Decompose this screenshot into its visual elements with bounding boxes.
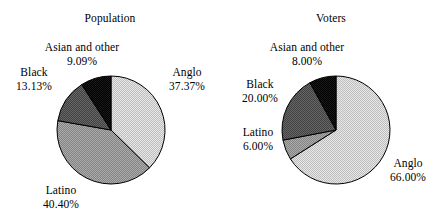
chart-panel-population: Population bbox=[0, 0, 220, 217]
slice-label-value: 66.00% bbox=[377, 171, 439, 185]
slice-label-name: Latino bbox=[227, 126, 289, 140]
pie-population-slices bbox=[57, 76, 165, 184]
slice-label-name: Asian and other bbox=[22, 41, 142, 55]
slice-label-value: 13.13% bbox=[3, 80, 65, 94]
chart-title-population: Population bbox=[0, 12, 220, 25]
slice-label-asian-and-other-voters: Asian and other 8.00% bbox=[247, 41, 367, 68]
slice-label-value: 37.37% bbox=[156, 80, 218, 94]
slice-label-latino-voters: Latino 6.00% bbox=[227, 126, 289, 153]
pie-chart-figure: Population bbox=[0, 0, 441, 217]
slice-label-name: Asian and other bbox=[247, 41, 367, 55]
pie-voters-slices bbox=[282, 76, 390, 184]
slice-label-name: Black bbox=[3, 66, 65, 80]
slice-label-black-population: Black 13.13% bbox=[3, 66, 65, 93]
slice-label-name: Black bbox=[229, 78, 291, 92]
slice-label-name: Latino bbox=[30, 184, 92, 198]
slice-label-value: 40.40% bbox=[30, 198, 92, 212]
slice-label-anglo-voters: Anglo 66.00% bbox=[377, 157, 439, 184]
chart-title-voters: Voters bbox=[221, 12, 441, 25]
slice-label-asian-and-other-population: Asian and other 9.09% bbox=[22, 41, 142, 68]
slice-label-value: 8.00% bbox=[247, 55, 367, 69]
chart-panel-voters: Voters bbox=[221, 0, 441, 217]
slice-label-name: Anglo bbox=[377, 157, 439, 171]
pie-voters bbox=[281, 75, 391, 185]
slice-label-anglo-population: Anglo 37.37% bbox=[156, 66, 218, 93]
slice-label-value: 6.00% bbox=[227, 140, 289, 154]
slice-label-name: Anglo bbox=[156, 66, 218, 80]
slice-label-black-voters: Black 20.00% bbox=[229, 78, 291, 105]
pie-population bbox=[56, 75, 166, 185]
slice-label-value: 20.00% bbox=[229, 92, 291, 106]
slice-label-latino-population: Latino 40.40% bbox=[30, 184, 92, 211]
